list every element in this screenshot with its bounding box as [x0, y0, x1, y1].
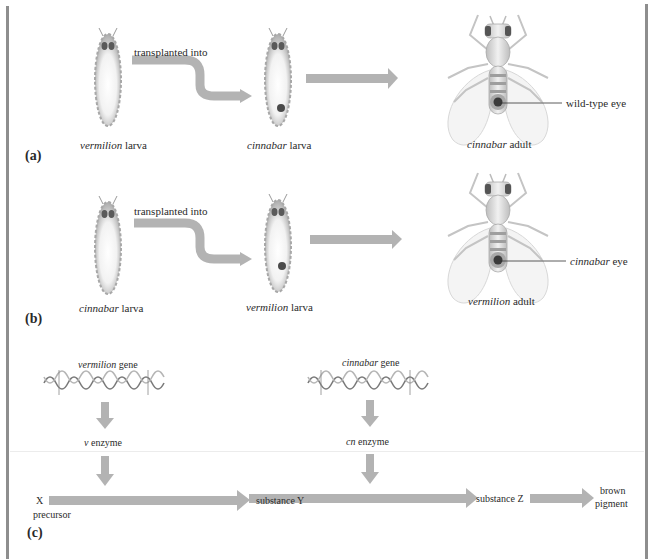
- pigment-label: pigment: [595, 497, 628, 510]
- arrow-a-to-adult: [306, 74, 388, 83]
- eye-callout-b: cinnabar eye: [570, 255, 628, 268]
- cn-enzyme-suffix: enzyme: [355, 436, 389, 447]
- donor-stage-a: larva: [122, 139, 147, 151]
- adult-stage-b: adult: [510, 295, 535, 307]
- diagram-graphics: [0, 0, 657, 559]
- v-enzyme-suffix: enzyme: [88, 437, 122, 448]
- host-label-b: vermilion larva: [246, 301, 313, 314]
- transplant-arrow-a: [132, 60, 240, 96]
- substance-z-label: substance Z: [476, 492, 524, 505]
- transplant-label-a: transplanted into: [134, 46, 208, 59]
- panel-label-b: (b): [25, 311, 42, 327]
- cinnabar-gene-label: cinnabar gene: [342, 356, 400, 369]
- eye-callout-b-genotype: cinnabar: [570, 255, 610, 267]
- adult-genotype-a: cinnabar: [467, 138, 507, 150]
- adult-label-a: cinnabar adult: [467, 138, 531, 151]
- donor-label-a: vermilion larva: [80, 139, 147, 152]
- cn-enzyme-label: cn enzyme: [346, 435, 389, 448]
- adult-label-b: vermilion adult: [468, 295, 535, 308]
- donor-label-b: cinnabar larva: [79, 302, 143, 315]
- eye-callout-a: wild-type eye: [566, 97, 626, 110]
- v-enzyme-label: v enzyme: [84, 436, 122, 449]
- cinnabar-larva-b-graphic: [95, 196, 121, 294]
- precursor-label: precursor: [33, 508, 71, 521]
- donor-genotype-a: vermilion: [80, 139, 122, 151]
- cinnabar-adult-fly-graphic: [448, 15, 548, 145]
- panel-label-a: (a): [25, 148, 41, 164]
- host-label-a: cinnabar larva: [247, 139, 311, 152]
- x-label: X: [36, 494, 43, 507]
- vermilion-larva-b-graphic: [265, 194, 291, 292]
- cinnabar-larva-a-graphic: [265, 28, 291, 126]
- donor-stage-b: larva: [119, 302, 144, 314]
- brown-label: brown: [600, 484, 626, 497]
- adult-genotype-b: vermilion: [468, 295, 510, 307]
- vermilion-gene-label: vermilion gene: [78, 358, 138, 371]
- vermilion-larva-a-graphic: [95, 28, 121, 126]
- vermilion-adult-fly-graphic: [448, 173, 548, 303]
- panel-label-c: (c): [27, 525, 43, 541]
- eye-callout-b-rest: eye: [610, 255, 628, 267]
- vermilion-gene-dna: [44, 371, 164, 389]
- transplant-label-b: transplanted into: [134, 205, 208, 218]
- adult-stage-a: adult: [507, 138, 532, 150]
- cinnabar-gene-name: cinnabar: [342, 357, 378, 368]
- host-stage-b: larva: [288, 301, 313, 313]
- vermilion-gene-suffix: gene: [116, 359, 137, 370]
- donor-genotype-b: cinnabar: [79, 302, 119, 314]
- cinnabar-gene-suffix: gene: [378, 357, 399, 368]
- host-stage-a: larva: [287, 139, 312, 151]
- substance-y-label: substance Y: [256, 494, 304, 507]
- vermilion-gene-name: vermilion: [78, 359, 116, 370]
- host-genotype-a: cinnabar: [247, 139, 287, 151]
- host-genotype-b: vermilion: [246, 301, 288, 313]
